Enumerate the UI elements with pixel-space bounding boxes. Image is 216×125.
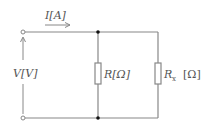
resistor-rx	[155, 63, 161, 84]
resistor-rx-label-main: R	[163, 68, 172, 81]
resistor-rx-label-subscript: x	[172, 75, 176, 83]
current-label: I[A]	[44, 9, 67, 22]
junction-top-dot	[96, 30, 100, 34]
junction-bottom-dot	[96, 116, 100, 120]
terminal-bottom-icon	[21, 116, 25, 120]
terminal-top-icon	[21, 30, 25, 34]
resistor-rx-label-unit: [Ω]	[183, 68, 201, 81]
resistor-r	[95, 63, 101, 84]
circuit-diagram: I[A] V[V] R[Ω] R x [Ω]	[0, 0, 216, 125]
resistor-r-label: R[Ω]	[103, 68, 131, 81]
voltage-label: V[V]	[13, 67, 38, 80]
